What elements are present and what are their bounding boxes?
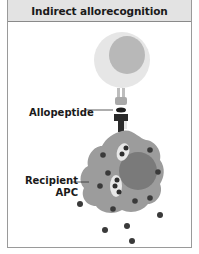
tcr-icon [115,88,127,105]
recipient-apc-label-line1: Recipient [18,175,78,187]
recipient-apc-icon [81,130,164,212]
recipient-apc-label: Recipient APC [18,175,78,199]
recipient-apc-label-line2: APC [18,187,78,199]
t-cell-icon [94,32,150,88]
allopeptide-icon [116,108,126,113]
mhc-icon [114,114,128,132]
allopeptide-label: Allopeptide [29,107,94,119]
allorecognition-diagram [0,0,199,254]
